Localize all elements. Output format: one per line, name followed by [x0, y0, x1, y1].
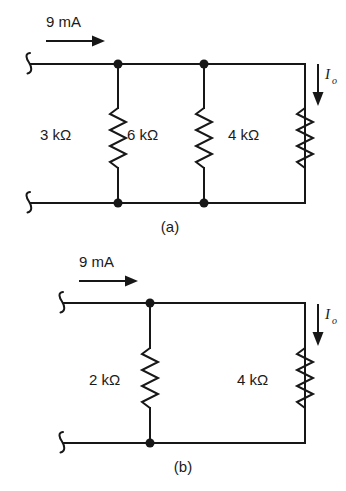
resistor-branch-3k-a: 3 kΩ	[40, 64, 126, 203]
resistor-label-4k-a: 4 kΩ	[228, 126, 259, 143]
resistor-label-3k: 3 kΩ	[40, 126, 71, 143]
circuit-figure: 9 mA 3 kΩ	[0, 0, 346, 491]
caption-b: (b)	[174, 458, 192, 475]
node-dot	[200, 60, 209, 69]
node-dot	[200, 199, 209, 208]
resistor-label-4k-b: 4 kΩ	[237, 371, 268, 388]
output-current-label-b: I	[324, 306, 331, 322]
output-current-subscript-b: o	[332, 315, 337, 326]
source-current-label-a: 9 mA	[46, 13, 81, 30]
output-current-arrow-b	[313, 304, 324, 346]
node-dot	[146, 299, 155, 308]
resistor-branch-4k-b: 4 kΩ	[237, 348, 313, 408]
source-current-arrow-b	[79, 276, 138, 287]
caption-a: (a)	[161, 218, 179, 235]
circuit-a: 9 mA 3 kΩ	[26, 13, 337, 235]
circuit-diagram-svg: 9 mA 3 kΩ	[0, 0, 346, 491]
source-current-arrow-a	[46, 36, 105, 47]
source-current-label-b: 9 mA	[79, 253, 114, 270]
node-dot	[114, 199, 123, 208]
output-current-arrow-a	[313, 64, 324, 106]
resistor-label-6k: 6 kΩ	[127, 126, 158, 143]
output-current-subscript-a: o	[332, 75, 337, 86]
output-current-label-a: I	[324, 66, 331, 82]
resistor-branch-4k-a: 4 kΩ	[228, 108, 313, 168]
resistor-branch-2k-b: 2 kΩ	[89, 303, 158, 443]
circuit-b: 9 mA 2 kΩ	[59, 253, 337, 475]
node-dot	[114, 60, 123, 69]
resistor-label-2k: 2 kΩ	[89, 371, 120, 388]
node-dot	[146, 439, 155, 448]
resistor-branch-6k-a: 6 kΩ	[127, 64, 212, 203]
